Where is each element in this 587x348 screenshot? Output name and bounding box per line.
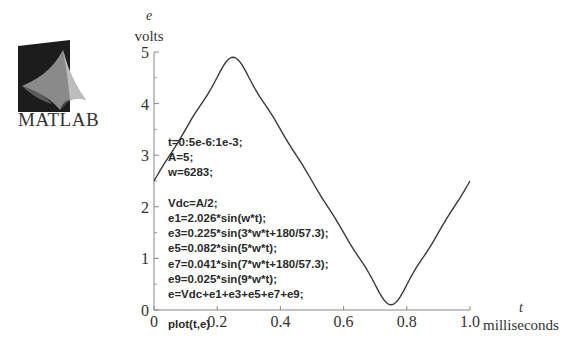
chart: MATLAB 012345 00.20.40.60.81.0 e volts t… bbox=[0, 0, 587, 348]
x-tick-label: 0.4 bbox=[270, 313, 290, 330]
matlab-membrane-icon bbox=[18, 40, 86, 112]
matlab-logo: MATLAB bbox=[18, 40, 99, 130]
x-axis-symbol: t bbox=[519, 300, 524, 315]
x-tick-label: 1.0 bbox=[460, 313, 480, 330]
y-tick-label: 1 bbox=[141, 250, 149, 267]
x-tick-label: 0.2 bbox=[207, 313, 227, 330]
code-line: t=0:5e-6:1e-3; bbox=[168, 136, 242, 148]
y-tick-label: 0 bbox=[141, 302, 149, 319]
y-tick-label: 2 bbox=[141, 199, 149, 216]
x-axis-label: milliseconds bbox=[483, 317, 559, 333]
code-line: e9=0.025*sin(9*w*t); bbox=[168, 273, 277, 285]
code-line: e7=0.041*sin(7*w*t+180/57.3); bbox=[168, 258, 328, 270]
matlab-code-block: t=0:5e-6:1e-3;A=5;w=6283;Vdc=A/2;e1=2.02… bbox=[167, 136, 328, 330]
code-line: e3=0.225*sin(3*w*t+180/57.3); bbox=[168, 227, 328, 239]
code-line: e5=0.082*sin(5*w*t); bbox=[168, 242, 277, 254]
code-line: plot(t,e) bbox=[168, 318, 210, 330]
code-line: e1=2.026*sin(w*t); bbox=[168, 212, 266, 224]
y-tick-label: 5 bbox=[141, 44, 149, 61]
y-axis-symbol: e bbox=[146, 8, 152, 23]
code-line: e=Vdc+e1+e3+e5+e7+e9; bbox=[168, 288, 304, 300]
code-line: w=6283; bbox=[167, 166, 213, 178]
code-line: A=5; bbox=[168, 151, 193, 163]
matlab-logo-text: MATLAB bbox=[18, 109, 99, 130]
code-line: Vdc=A/2; bbox=[168, 197, 218, 209]
y-axis-label: volts bbox=[134, 28, 163, 44]
y-tick-label: 3 bbox=[141, 147, 149, 164]
y-tick-label: 4 bbox=[141, 96, 149, 113]
x-tick-label: 0 bbox=[150, 313, 158, 330]
y-ticks: 012345 bbox=[141, 44, 159, 319]
x-tick-label: 0.8 bbox=[397, 313, 417, 330]
x-tick-label: 0.6 bbox=[334, 313, 354, 330]
